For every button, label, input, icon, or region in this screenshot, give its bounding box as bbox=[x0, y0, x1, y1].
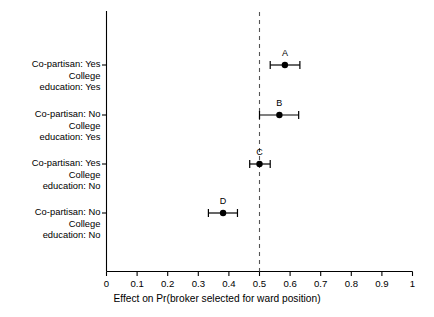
category-label-line: Co-partisan: Yes bbox=[32, 58, 101, 70]
category-label-line: Co-partisan: No bbox=[35, 108, 101, 120]
category-label-line: College bbox=[35, 218, 101, 230]
x-tick-label-10: 1 bbox=[393, 278, 433, 289]
forest-plot-chart: Co-partisan: YesCollegeeducation: YesCo-… bbox=[0, 0, 434, 317]
data-point-A bbox=[282, 62, 288, 68]
category-label-C: Co-partisan: YesCollegeeducation: No bbox=[32, 157, 101, 192]
data-point-B bbox=[276, 112, 282, 118]
data-point-D bbox=[220, 210, 226, 216]
x-axis-title: Effect on Pr(broker selected for ward po… bbox=[0, 293, 434, 304]
category-label-B: Co-partisan: NoCollegeeducation: Yes bbox=[35, 108, 101, 143]
point-label-A: A bbox=[275, 48, 295, 58]
category-label-line: College bbox=[32, 70, 101, 82]
category-label-line: education: No bbox=[35, 229, 101, 241]
category-label-line: Co-partisan: Yes bbox=[32, 157, 101, 169]
category-label-D: Co-partisan: NoCollegeeducation: No bbox=[35, 206, 101, 241]
category-label-line: Co-partisan: No bbox=[35, 206, 101, 218]
point-label-D: D bbox=[213, 196, 233, 206]
category-label-line: College bbox=[32, 169, 101, 181]
category-label-line: education: No bbox=[32, 180, 101, 192]
category-label-line: College bbox=[35, 120, 101, 132]
point-label-B: B bbox=[269, 98, 289, 108]
category-label-line: education: Yes bbox=[32, 81, 101, 93]
category-label-line: education: Yes bbox=[35, 131, 101, 143]
category-label-A: Co-partisan: YesCollegeeducation: Yes bbox=[32, 58, 101, 93]
point-label-C: C bbox=[250, 147, 270, 157]
data-point-C bbox=[256, 161, 262, 167]
